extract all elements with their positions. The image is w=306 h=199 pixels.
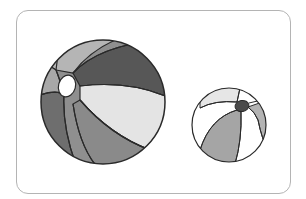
small-beach-ball: [190, 86, 268, 164]
large-beach-ball: [40, 38, 170, 170]
beach-balls-illustration: [0, 0, 306, 199]
